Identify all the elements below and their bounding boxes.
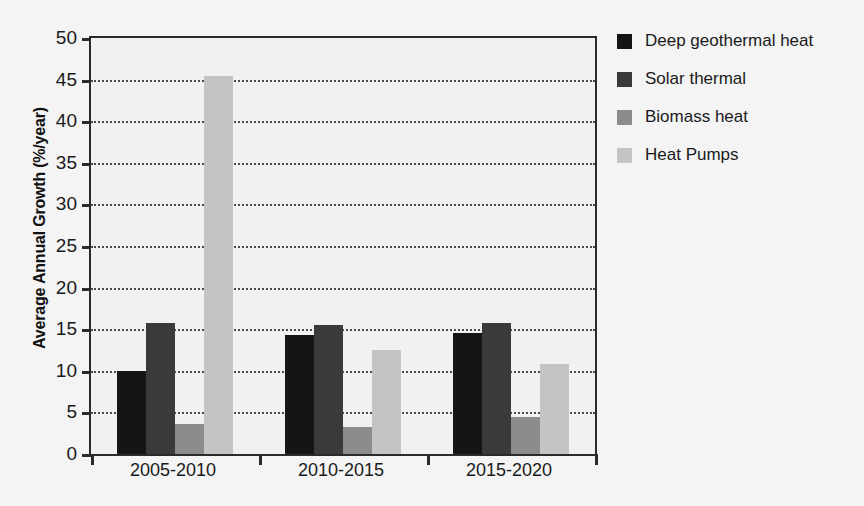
y-tick-label: 5 [66,401,77,423]
bar [511,417,540,454]
bar [204,76,233,454]
legend-item[interactable]: Deep geothermal heat [617,22,813,60]
legend-label: Biomass heat [645,107,748,127]
bar [372,350,401,454]
gridline [91,288,595,290]
bar [314,325,343,454]
bar [117,371,146,454]
y-axis-title: Average Annual Growth (%/year) [31,13,49,443]
y-tick-mark [82,288,91,291]
x-tick-mark [427,454,430,465]
y-tick-mark [82,246,91,249]
legend-label: Solar thermal [645,69,746,89]
legend-swatch-icon [617,34,632,49]
y-tick-label: 30 [56,193,77,215]
y-tick-label: 40 [56,110,77,132]
y-tick-mark [82,204,91,207]
y-tick-mark [82,121,91,124]
x-tick-mark [91,454,94,465]
x-category-label: 2015-2020 [466,460,552,481]
legend-swatch-icon [617,110,632,125]
legend-label: Heat Pumps [645,145,739,165]
y-tick-mark [82,163,91,166]
y-tick-label: 20 [56,277,77,299]
x-tick-mark [259,454,262,465]
legend-swatch-icon [617,148,632,163]
x-tick-mark [595,454,598,465]
gridline [91,80,595,82]
gridline [91,204,595,206]
plot-area: 05101520253035404550 [89,36,597,456]
legend-item[interactable]: Solar thermal [617,60,813,98]
legend-item[interactable]: Heat Pumps [617,136,813,174]
x-category-label: 2010-2015 [298,460,384,481]
x-category-label: 2005-2010 [130,460,216,481]
y-tick-label: 15 [56,318,77,340]
y-tick-label: 25 [56,235,77,257]
y-tick-label: 0 [66,443,77,465]
legend-label: Deep geothermal heat [645,31,813,51]
bar [175,424,204,454]
gridline [91,163,595,165]
gridline [91,246,595,248]
bar [540,364,569,454]
bar [343,427,372,454]
bar [453,333,482,454]
legend-item[interactable]: Biomass heat [617,98,813,136]
y-tick-label: 50 [56,27,77,49]
bar [146,323,175,454]
y-tick-mark [82,80,91,83]
y-tick-mark [82,371,91,374]
y-tick-label: 45 [56,69,77,91]
gridline [91,121,595,123]
y-tick-mark [82,412,91,415]
y-tick-mark [82,329,91,332]
chart-legend: Deep geothermal heatSolar thermalBiomass… [617,22,813,174]
y-tick-mark [82,454,91,457]
y-tick-mark [82,38,91,41]
chart-figure: Average Annual Growth (%/year) 051015202… [0,0,864,506]
legend-swatch-icon [617,72,632,87]
y-tick-label: 10 [56,360,77,382]
bar [285,335,314,454]
bar [482,323,511,454]
y-tick-label: 35 [56,152,77,174]
